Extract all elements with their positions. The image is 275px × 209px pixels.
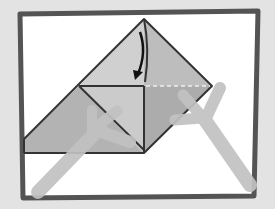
origami-step-illustration [0,0,275,209]
diagram-canvas [0,0,275,209]
